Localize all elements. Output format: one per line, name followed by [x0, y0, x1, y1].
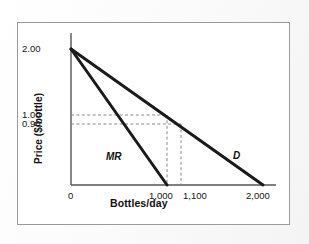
x-tick-label-1100: 1,100 [183, 190, 207, 201]
y-tick-label-2.00: 2.00 [22, 43, 41, 54]
y-axis-title: Price ($/bottle) [33, 93, 44, 164]
curve-label-d: D [233, 150, 240, 161]
figure-frame: 2.00 1.00 0.90 0 1,000 1,100 2,000 MR D [17, 22, 290, 225]
curve-label-mr: MR [106, 151, 122, 162]
figure-container: 2.00 1.00 0.90 0 1,000 1,100 2,000 MR D … [0, 0, 309, 244]
curve-marginal-revenue [71, 49, 167, 185]
x-tick-label-2000: 2,000 [246, 190, 270, 201]
x-axis-title: Bottles/day [110, 197, 168, 209]
x-tick-label-0: 0 [68, 190, 73, 201]
